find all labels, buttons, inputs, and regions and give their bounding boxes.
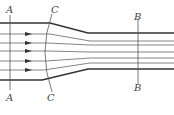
label-A-top: A [5,4,13,15]
label-C-bottom: C [47,92,55,103]
flow-arrow-icons [25,32,32,72]
converging-flow-diagram: A A C C B B [0,0,174,115]
label-A-bottom: A [5,92,13,103]
label-B-bottom: B [133,82,141,93]
label-C-top: C [51,4,59,15]
top-wall [0,23,174,33]
section-C-curve [45,14,52,92]
label-B-top: B [133,11,141,22]
